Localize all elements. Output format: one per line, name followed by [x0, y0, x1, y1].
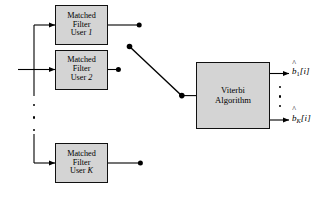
matched-filter-user-k-index: K: [88, 166, 93, 175]
hat-accent-icon: ^: [292, 106, 296, 114]
output-label-b-hat-k: ^bK[i]: [292, 113, 311, 123]
commutator-switch-arm[interactable]: [127, 44, 185, 99]
matched-filter-user-2-user-word: User: [71, 73, 89, 82]
ellipsis-dot: [33, 129, 35, 131]
ellipsis-dot: [279, 86, 281, 88]
matched-filter-user-1-line3: User 1: [71, 29, 93, 38]
matched-filter-user-1-index: 1: [88, 28, 92, 37]
b-hat-1-base: b: [292, 66, 297, 76]
wire-layer: [0, 0, 326, 199]
hat-accent-icon: ^: [292, 60, 296, 68]
input-bus-ellipsis: [33, 104, 35, 131]
b-hat-k-symbol: ^b: [292, 113, 297, 123]
b-hat-1-subscript: 1: [297, 70, 300, 77]
b-hat-k-bracket: [i]: [301, 113, 311, 123]
ellipsis-dot: [33, 116, 35, 118]
ellipsis-dot: [279, 105, 281, 107]
matched-filter-user-2-index: 2: [88, 73, 92, 82]
b-hat-1-symbol: ^b: [292, 66, 297, 76]
ellipsis-dot: [279, 95, 281, 97]
output-wire-user-k: [108, 161, 143, 166]
b-hat-k-base: b: [292, 113, 297, 123]
block-diagram: Matched Filter User 1 Matched Filter Use…: [0, 0, 326, 199]
b-hat-k-subscript: K: [297, 117, 301, 124]
matched-filter-user-1-user-word: User: [71, 28, 89, 37]
output-wire-user-2: [108, 67, 121, 72]
matched-filter-user-2-line3: User 2: [71, 74, 93, 83]
matched-filter-user-k-line3: User K: [70, 167, 93, 176]
matched-filter-user-2-block[interactable]: Matched Filter User 2: [55, 50, 108, 90]
output-label-b-hat-1: ^b1[i]: [292, 66, 310, 76]
viterbi-line2: Algorithm: [215, 96, 251, 106]
b-hat-1-bracket: [i]: [300, 66, 310, 76]
matched-filter-user-1-block[interactable]: Matched Filter User 1: [55, 5, 108, 45]
matched-filter-user-k-block[interactable]: Matched Filter User K: [55, 143, 108, 183]
ellipsis-dot: [33, 104, 35, 106]
detector-output-ellipsis: [279, 86, 281, 107]
matched-filter-user-k-user-word: User: [70, 166, 88, 175]
output-wire-user-1: [108, 23, 142, 28]
viterbi-algorithm-block[interactable]: Viterbi Algorithm: [196, 62, 270, 129]
